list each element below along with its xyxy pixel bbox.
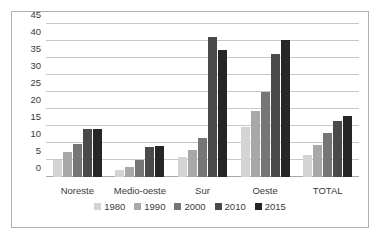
y-axis-tick-label: 30 (30, 61, 41, 71)
bar[interactable] (198, 138, 207, 177)
bar-group: Oeste (234, 24, 297, 177)
legend-item-label: 2010 (225, 202, 246, 212)
bar[interactable] (313, 145, 322, 177)
y-axis-tick-label: 25 (30, 78, 41, 88)
bar-group-bars (234, 24, 297, 177)
bar[interactable] (83, 129, 92, 177)
y-axis-tick-label: 20 (30, 95, 41, 105)
x-axis-tick-label: Noreste (46, 185, 109, 196)
y-axis-tick-label: 0 (36, 163, 41, 173)
x-axis-tick-label: Oeste (234, 185, 297, 196)
bar-group: TOTAL (296, 24, 359, 177)
y-axis-tick-label: 5 (36, 146, 41, 156)
bar[interactable] (125, 167, 134, 177)
legend-item[interactable]: 1990 (134, 202, 165, 212)
bar-groups: NoresteMedio-oesteSurOesteTOTAL (46, 24, 359, 177)
bar[interactable] (145, 147, 154, 177)
legend-item-label: 2015 (265, 202, 286, 212)
legend-swatch-icon (255, 203, 262, 210)
bar[interactable] (135, 160, 144, 177)
bar[interactable] (188, 150, 197, 177)
bar[interactable] (343, 116, 352, 177)
bar[interactable] (251, 111, 260, 177)
legend-swatch-icon (134, 203, 141, 210)
bar[interactable] (271, 54, 280, 177)
bar[interactable] (261, 92, 270, 177)
legend-swatch-icon (94, 203, 101, 210)
y-axis-tick-label: 15 (30, 112, 41, 122)
bar-group-bars (296, 24, 359, 177)
bar-group: Medio-oeste (109, 24, 172, 177)
y-axis-tick-label: 45 (30, 10, 41, 20)
legend-item[interactable]: 2015 (255, 202, 286, 212)
bar[interactable] (281, 40, 290, 177)
legend-swatch-icon (215, 203, 222, 210)
legend-swatch-icon (174, 203, 181, 210)
x-axis-tick-label: TOTAL (296, 185, 359, 196)
y-axis-tick-label: 40 (30, 27, 41, 37)
bar[interactable] (115, 170, 124, 177)
x-axis-tick-label: Sur (171, 185, 234, 196)
y-axis-tick-label: 10 (30, 129, 41, 139)
bar-group-bars (109, 24, 172, 177)
legend-item-label: 2000 (184, 202, 205, 212)
legend-item[interactable]: 2010 (215, 202, 246, 212)
bar[interactable] (208, 37, 217, 177)
plot-area: 051015202530354045 NoresteMedio-oesteSur… (46, 24, 359, 177)
bar[interactable] (73, 144, 82, 177)
bar[interactable] (178, 157, 187, 177)
bar-group-bars (171, 24, 234, 177)
bar[interactable] (155, 146, 164, 177)
bar[interactable] (218, 50, 227, 177)
bar-group: Sur (171, 24, 234, 177)
bar[interactable] (303, 155, 312, 177)
bar-group-bars (46, 24, 109, 177)
legend-item[interactable]: 2000 (174, 202, 205, 212)
legend-item-label: 1990 (144, 202, 165, 212)
bar[interactable] (63, 152, 72, 177)
bar[interactable] (53, 160, 62, 177)
y-axis-tick-label: 35 (30, 44, 41, 54)
bar[interactable] (323, 133, 332, 177)
x-axis-tick-label: Medio-oeste (109, 185, 172, 196)
bar[interactable] (333, 121, 342, 177)
bar[interactable] (241, 127, 250, 177)
chart-legend: 19801990200020102015 (12, 202, 368, 212)
legend-item-label: 1980 (104, 202, 125, 212)
chart-frame: 051015202530354045 NoresteMedio-oesteSur… (11, 11, 369, 228)
legend-item[interactable]: 1980 (94, 202, 125, 212)
bar-group: Noreste (46, 24, 109, 177)
bar[interactable] (93, 129, 102, 177)
